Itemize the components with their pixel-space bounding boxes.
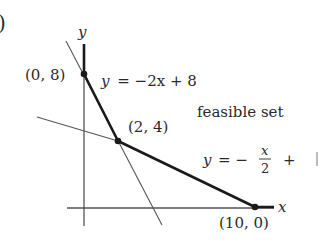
constraint-line-2 [37,117,118,141]
vertex-0-8 [81,71,88,78]
point-label-10-0: (10, 0) [219,214,269,232]
point-label-0-8: (0, 8) [25,66,65,84]
feasible-set-diagram: ) y x (0, 8) (2, 4) (10, 0) y = −2x + 8 … [0,0,322,248]
equation-line-2-lhs: y [202,151,212,169]
feasible-set-label: feasible set [197,103,284,121]
equation-line-2-suffix: + [283,151,296,169]
point-label-2-4: (2, 4) [128,118,168,136]
y-axis-label: y [77,23,87,41]
equation-line-2-prefix: = − [218,151,248,169]
vertex-10-0 [252,204,259,211]
x-axis-label: x [278,198,287,216]
cropped-glyph [316,152,318,166]
equation-line-2-denominator: 2 [261,161,269,176]
equation-line-2-numerator: x [261,143,269,158]
equation-line-1: y = −2x + 8 [100,72,197,90]
panel-marker: ) [0,11,6,35]
feasible-boundary [84,44,274,207]
vertex-2-4 [115,138,122,145]
